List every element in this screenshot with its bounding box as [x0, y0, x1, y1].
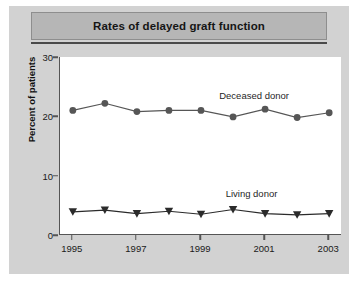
data-point — [326, 109, 333, 116]
data-point — [262, 106, 269, 113]
x-tick-mark — [327, 235, 329, 240]
y-tick-mark — [53, 56, 58, 58]
data-point — [166, 107, 173, 114]
x-tick-mark — [263, 235, 265, 240]
data-point — [198, 107, 205, 114]
x-tick-label: 1995 — [61, 243, 82, 254]
x-tick-label: 1997 — [125, 243, 146, 254]
y-tick-mark — [53, 116, 58, 118]
x-tick-label: 2003 — [318, 243, 339, 254]
chart-svg — [60, 57, 342, 235]
x-tick-mark — [71, 235, 73, 240]
series-label-living-donor: Living donor — [226, 188, 278, 199]
data-point — [294, 114, 301, 121]
data-point — [101, 100, 108, 107]
x-axis-tick-labels: 19951997199920012003 — [59, 235, 341, 263]
data-point — [69, 107, 76, 114]
series-label-deceased-donor: Deceased donor — [219, 90, 289, 101]
chart-title: Rates of delayed graft function — [93, 20, 265, 32]
title-underline — [31, 42, 327, 44]
figure-panel: Rates of delayed graft function Percent … — [9, 6, 349, 274]
x-tick-label: 1999 — [189, 243, 210, 254]
y-tick-label: 30 — [42, 52, 53, 63]
y-tick-mark — [53, 175, 58, 177]
y-tick-label: 10 — [42, 170, 53, 181]
y-axis-tick-labels: 0102030 — [31, 57, 53, 235]
y-tick-mark — [53, 234, 58, 236]
plot-area — [59, 57, 341, 235]
x-tick-label: 2001 — [254, 243, 275, 254]
chart-title-band: Rates of delayed graft function — [31, 12, 327, 40]
plot-inner — [60, 57, 341, 234]
data-point — [230, 114, 237, 121]
y-tick-label: 20 — [42, 111, 53, 122]
x-tick-mark — [199, 235, 201, 240]
data-point — [134, 108, 141, 115]
x-tick-mark — [135, 235, 137, 240]
